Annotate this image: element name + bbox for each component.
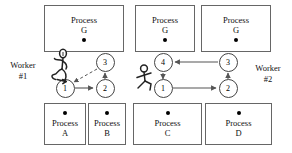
worker-1-label-line2: #1 xyxy=(2,71,44,82)
worker-2-label: Worker #2 xyxy=(246,63,290,84)
worker-2-label-line1: Worker xyxy=(246,63,290,74)
worker-2-label-line2: #2 xyxy=(246,74,290,85)
worker-1-label-line1: Worker xyxy=(2,60,44,71)
diagram-canvas: Process G Process G Process G Process A … xyxy=(0,0,292,153)
worker-1-label: Worker #1 xyxy=(2,60,44,81)
worker-2-figure-icon xyxy=(133,64,159,94)
